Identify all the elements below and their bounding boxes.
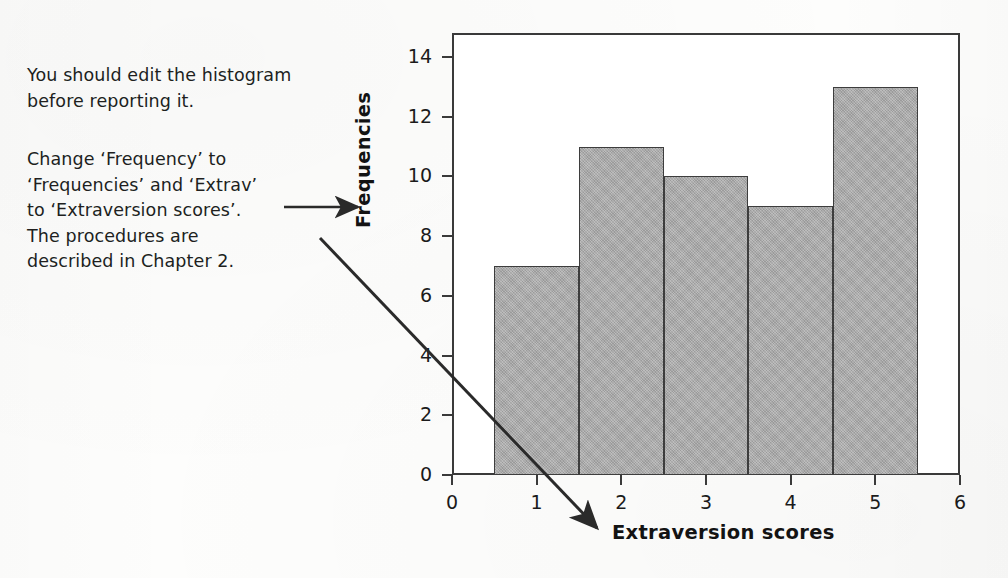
x-axis-tick-label: 4: [776, 491, 806, 513]
x-axis-title: Extraversion scores: [612, 521, 835, 544]
y-axis-tick-label: 6: [398, 284, 432, 306]
x-axis-tick-label: 5: [860, 491, 890, 513]
y-axis-tick-mark: [442, 56, 452, 58]
y-axis-tick-label: 4: [398, 344, 432, 366]
plot-area-frame: [452, 33, 960, 475]
x-axis-tick-mark: [790, 475, 792, 485]
x-axis-tick-mark: [451, 475, 453, 485]
x-axis-tick-mark: [959, 475, 961, 485]
y-axis-tick-mark: [442, 235, 452, 237]
y-axis-tick-mark: [442, 414, 452, 416]
y-axis-tick-label: 10: [398, 164, 432, 186]
y-axis-tick-mark: [442, 355, 452, 357]
x-axis-tick-label: 3: [691, 491, 721, 513]
y-axis-tick-mark: [442, 175, 452, 177]
y-axis-title: Frequencies: [352, 48, 375, 228]
figure-page: You should edit the histogram before rep…: [0, 0, 1008, 578]
x-axis-tick-mark: [874, 475, 876, 485]
x-axis-tick-label: 1: [522, 491, 552, 513]
y-axis-tick-label: 12: [398, 105, 432, 127]
y-axis-tick-label: 14: [398, 45, 432, 67]
y-axis-tick-label: 8: [398, 224, 432, 246]
y-axis-tick-label: 0: [398, 463, 432, 485]
x-axis-tick-label: 2: [606, 491, 636, 513]
y-axis-tick-label: 2: [398, 403, 432, 425]
y-axis-tick-mark: [442, 295, 452, 297]
histogram-chart: 024681012140123456 Frequencies Extravers…: [0, 0, 1008, 578]
x-axis-tick-label: 0: [437, 491, 467, 513]
y-axis-tick-mark: [442, 116, 452, 118]
x-axis-tick-label: 6: [945, 491, 975, 513]
x-axis-tick-mark: [705, 475, 707, 485]
x-axis-tick-mark: [620, 475, 622, 485]
x-axis-tick-mark: [536, 475, 538, 485]
